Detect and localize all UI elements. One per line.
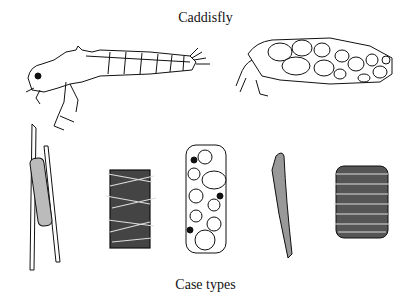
- stick-attached-tube-case: [29, 124, 60, 270]
- sand-grain-tapered-case: [272, 153, 292, 258]
- caddisfly-larva: [26, 46, 210, 130]
- illustration-canvas: [0, 0, 411, 301]
- twig-log-cabin-case: [106, 170, 156, 248]
- caddisfly-larva-in-pebble-case: [236, 38, 392, 96]
- leaf-disc-stacked-case: [334, 166, 390, 238]
- figure-caption: Case types: [0, 277, 411, 293]
- snail-shell-case: [186, 145, 226, 253]
